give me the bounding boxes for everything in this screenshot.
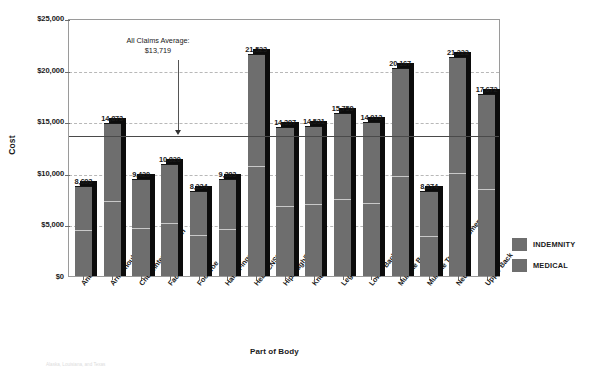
bar-group[interactable] bbox=[363, 122, 380, 276]
bar-segment-divider bbox=[276, 206, 293, 207]
bar-group[interactable] bbox=[305, 126, 322, 276]
bar-value-label: 15,759 bbox=[321, 104, 365, 113]
bar-value-label: 8,274 bbox=[407, 182, 451, 191]
legend: INDEMNITYMEDICAL bbox=[512, 238, 575, 280]
bar-group[interactable] bbox=[420, 191, 437, 276]
bar-body bbox=[75, 186, 92, 276]
y-axis-tick-label: $5,000 bbox=[10, 220, 64, 229]
y-axis-tick-label: $0 bbox=[10, 272, 64, 281]
y-axis-tick-label: $25,000 bbox=[10, 14, 64, 23]
cost-by-part-of-body-chart: Cost $0$5,000$10,000$15,000$20,000$25,00… bbox=[0, 0, 591, 373]
chart-footnote: Alaska, Louisiana, and Texas bbox=[46, 362, 105, 367]
bar-body bbox=[392, 68, 409, 276]
bar-body bbox=[104, 123, 121, 276]
all-claims-average-arrow-head bbox=[175, 130, 181, 135]
bar-group[interactable] bbox=[248, 54, 265, 276]
y-axis-tick-labels: $0$5,000$10,000$15,000$20,000$25,000 bbox=[0, 0, 64, 373]
bar-body bbox=[334, 113, 351, 276]
bar-value-label: 20,167 bbox=[378, 59, 422, 68]
bar-group[interactable] bbox=[392, 68, 409, 276]
bar-group[interactable] bbox=[478, 94, 495, 276]
bar-body bbox=[305, 126, 322, 276]
legend-swatch bbox=[512, 238, 527, 251]
y-axis-tickmark bbox=[65, 20, 70, 21]
bar-body bbox=[276, 127, 293, 276]
y-axis-tick-label: $10,000 bbox=[10, 169, 64, 178]
all-claims-average-annotation: All Claims Average: $13,719 bbox=[104, 36, 212, 55]
bar-segment-divider bbox=[190, 235, 207, 236]
bar-body bbox=[219, 179, 236, 276]
bar-value-label: 21,523 bbox=[234, 45, 278, 54]
all-claims-average-arrow-line bbox=[178, 60, 179, 132]
gridline bbox=[69, 72, 499, 73]
y-axis-tickmark bbox=[65, 175, 70, 176]
bar-group[interactable] bbox=[276, 127, 293, 276]
bar-value-label: 8,693 bbox=[61, 177, 105, 186]
x-axis-title: Part of Body bbox=[250, 347, 299, 356]
bar-value-label: 14,873 bbox=[90, 114, 134, 123]
bar-segment-divider bbox=[305, 204, 322, 205]
legend-label: MEDICAL bbox=[533, 261, 568, 270]
bar-segment-divider bbox=[161, 223, 178, 224]
y-axis-tick-label: $20,000 bbox=[10, 66, 64, 75]
bar-segment-divider bbox=[392, 176, 409, 177]
bar-value-label: 21,222 bbox=[436, 48, 480, 57]
legend-item[interactable]: MEDICAL bbox=[512, 259, 575, 272]
bar-group[interactable] bbox=[190, 191, 207, 276]
legend-label: INDEMNITY bbox=[533, 240, 575, 249]
bar-group[interactable] bbox=[334, 113, 351, 276]
bar-value-label: 9,383 bbox=[205, 170, 249, 179]
bar-group[interactable] bbox=[132, 179, 149, 276]
bar-segment-divider bbox=[420, 236, 437, 237]
bar-value-label: 14,913 bbox=[349, 113, 393, 122]
bar-body bbox=[190, 191, 207, 276]
bar-value-label: 10,820 bbox=[148, 155, 192, 164]
bar-segment-divider bbox=[219, 229, 236, 230]
bar-value-label: 9,420 bbox=[119, 170, 163, 179]
bar-body bbox=[420, 191, 437, 276]
legend-swatch bbox=[512, 259, 527, 272]
bar-value-label: 14,531 bbox=[292, 117, 336, 126]
bar-body bbox=[248, 54, 265, 276]
bar-segment-divider bbox=[334, 199, 351, 200]
bar-segment-divider bbox=[132, 228, 149, 229]
bar-segment-divider bbox=[75, 230, 92, 231]
bar-group[interactable] bbox=[219, 179, 236, 276]
bar-segment-divider bbox=[248, 166, 265, 167]
all-claims-average-line1: All Claims Average: bbox=[104, 36, 212, 46]
y-axis-tickmark bbox=[65, 72, 70, 73]
bars-layer: 8,69314,8739,42010,8208,2349,38321,52314… bbox=[69, 20, 499, 276]
bar-segment-divider bbox=[478, 189, 495, 190]
bar-value-label: 17,672 bbox=[465, 85, 509, 94]
bar-body bbox=[363, 122, 380, 276]
bar-segment-divider bbox=[104, 201, 121, 202]
bar-value-label: 8,234 bbox=[177, 182, 221, 191]
y-axis-tickmark bbox=[65, 226, 70, 227]
all-claims-average-line2: $13,719 bbox=[104, 46, 212, 56]
bar-body bbox=[478, 94, 495, 276]
plot-area: 8,69314,8739,42010,8208,2349,38321,52314… bbox=[68, 19, 500, 277]
bar-group[interactable] bbox=[104, 123, 121, 276]
all-claims-average-line bbox=[69, 136, 499, 137]
legend-item[interactable]: INDEMNITY bbox=[512, 238, 575, 251]
bar-segment-divider bbox=[363, 203, 380, 204]
y-axis-tick-label: $15,000 bbox=[10, 117, 64, 126]
bar-group[interactable] bbox=[75, 186, 92, 276]
bar-segment-divider bbox=[449, 173, 466, 174]
y-axis-tickmark bbox=[65, 123, 70, 124]
